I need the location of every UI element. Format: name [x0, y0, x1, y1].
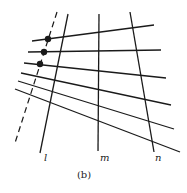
figure-diagram: lmn (b) — [0, 0, 187, 193]
point-1 — [45, 36, 51, 42]
line-l — [40, 14, 68, 153]
transversal-lines — [40, 12, 154, 153]
label-n: n — [155, 152, 161, 163]
label-l: l — [44, 152, 47, 163]
figure-caption: (b) — [77, 169, 91, 180]
label-m: m — [100, 152, 109, 163]
crossing-line-3 — [24, 63, 166, 78]
dashed-line — [15, 12, 57, 143]
crossing-line-2 — [28, 50, 161, 52]
line-m — [98, 14, 99, 151]
crossing-line-5 — [18, 81, 174, 129]
line-labels: lmn — [44, 152, 161, 163]
point-3 — [37, 61, 43, 67]
line-n — [130, 12, 154, 152]
point-2 — [41, 49, 47, 55]
